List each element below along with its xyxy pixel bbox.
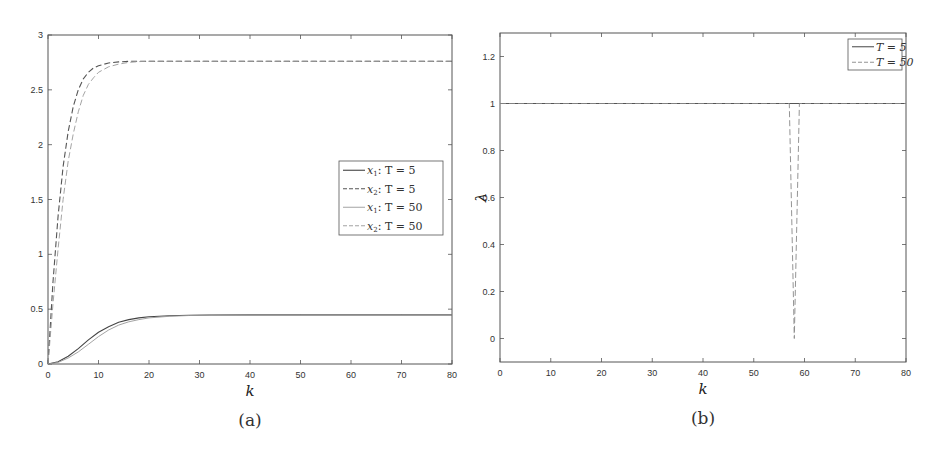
panel-a: 0102030405060708000.511.522.53k(a)x1: T … [30, 30, 457, 430]
x-tick-label: 40 [245, 370, 255, 380]
y-tick-label: 0 [490, 334, 495, 344]
y-tick-label: 1.5 [30, 195, 43, 205]
x-tick-label: 0 [45, 370, 50, 380]
x-tick-label: 30 [647, 368, 657, 378]
x-tick-label: 20 [144, 370, 154, 380]
series-line-2 [48, 315, 452, 364]
x-tick-label: 20 [596, 368, 606, 378]
x-tick-label: 0 [497, 368, 502, 378]
legend-entry-label: T = 5 [876, 41, 907, 54]
y-tick-label: 3 [38, 30, 43, 40]
y-axis-label: λ [472, 193, 490, 204]
y-tick-label: 0.8 [482, 146, 495, 156]
y-tick-label: 1 [490, 99, 495, 109]
x-tick-label: 50 [749, 368, 759, 378]
x-tick-label: 30 [194, 370, 204, 380]
panel-b: 0102030405060708000.20.40.60.811.2kλ(b)T… [472, 33, 914, 428]
panel-caption: (b) [691, 408, 715, 428]
y-tick-label: 0.5 [30, 304, 43, 314]
x-tick-label: 10 [93, 370, 103, 380]
x-tick-label: 10 [546, 368, 556, 378]
series-line-1 [500, 104, 906, 339]
x-tick-label: 70 [396, 370, 406, 380]
x-tick-label: 60 [799, 368, 809, 378]
x-tick-label: 50 [295, 370, 305, 380]
x-tick-label: 40 [698, 368, 708, 378]
axes-frame [500, 33, 906, 362]
x-axis-label: k [245, 382, 254, 400]
x-tick-label: 70 [850, 368, 860, 378]
series-line-0 [48, 315, 452, 364]
y-tick-label: 1.2 [482, 52, 495, 62]
y-tick-label: 2 [38, 140, 43, 150]
x-tick-label: 80 [447, 370, 457, 380]
legend-text: : T = 50 [378, 220, 423, 233]
legend-entry-label: T = 50 [876, 56, 914, 69]
y-tick-label: 0.2 [482, 287, 495, 297]
x-tick-label: 60 [346, 370, 356, 380]
x-tick-label: 80 [901, 368, 911, 378]
figure: 0102030405060708000.511.522.53k(a)x1: T … [0, 0, 939, 455]
y-tick-label: 1 [38, 249, 43, 259]
legend-text: : T = 5 [378, 164, 416, 177]
y-tick-label: 0.4 [482, 240, 495, 250]
x-axis-label: k [698, 380, 707, 398]
legend-text: : T = 50 [378, 201, 423, 214]
y-tick-label: 0 [38, 359, 43, 369]
legend: T = 5T = 50 [848, 39, 914, 70]
legend-text: : T = 5 [378, 183, 416, 196]
y-tick-label: 2.5 [30, 85, 43, 95]
panel-caption: (a) [238, 410, 261, 430]
legend: x1: T = 5x2: T = 5x1: T = 50x2: T = 50 [339, 161, 443, 235]
